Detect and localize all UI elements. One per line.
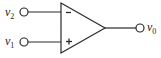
input-v2-terminal — [20, 8, 28, 16]
input-v1-terminal — [20, 38, 28, 46]
output-terminal — [136, 24, 144, 32]
input-v1-label: v1 — [5, 34, 14, 50]
output-v0-label: v0 — [147, 20, 156, 36]
op-amp-diagram: v2 v1 v0 — [0, 0, 161, 58]
input-v2-label: v2 — [5, 5, 14, 21]
op-amp-triangle-icon — [61, 3, 105, 53]
